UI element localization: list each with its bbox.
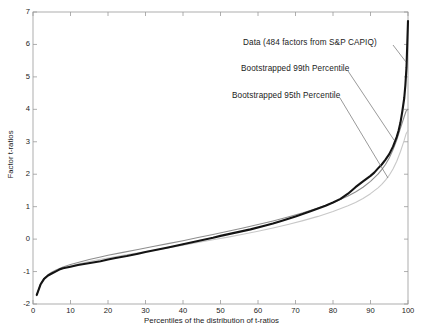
y-axis-label: Factor t-ratios: [6, 115, 15, 195]
y-tick-label: 7: [14, 7, 30, 16]
y-tick-label: 0: [14, 234, 30, 243]
plot-background: [33, 12, 408, 304]
x-tick-label: 40: [170, 306, 196, 315]
x-tick-label: 90: [358, 306, 384, 315]
y-tick-label: 3: [14, 137, 30, 146]
y-tick-label: -2: [14, 299, 30, 308]
annotation-data-series: Data (484 factors from S&P CAPIQ): [243, 38, 377, 47]
x-tick-label: 10: [58, 306, 84, 315]
y-tick-label: -1: [14, 267, 30, 276]
y-tick-label: 2: [14, 169, 30, 178]
figure: Data (484 factors from S&P CAPIQ) Bootst…: [0, 0, 423, 334]
x-tick-label: 50: [208, 306, 234, 315]
x-tick-label: 70: [283, 306, 309, 315]
chart-canvas: [0, 0, 423, 334]
y-tick-label: 4: [14, 104, 30, 113]
x-tick-label: 100: [395, 306, 421, 315]
x-tick-label: 80: [320, 306, 346, 315]
x-tick-label: 20: [95, 306, 121, 315]
y-tick-label: 1: [14, 202, 30, 211]
annotation-p99-series: Bootstrapped 99th Percentile: [241, 64, 349, 73]
x-tick-label: 30: [133, 306, 159, 315]
x-axis-label: Percentiles of the distribution of t-rat…: [0, 316, 423, 325]
y-tick-label: 5: [14, 72, 30, 81]
y-tick-label: 6: [14, 39, 30, 48]
annotation-p95-series: Bootstrapped 95th Percentile: [232, 91, 340, 100]
x-tick-label: 60: [245, 306, 271, 315]
